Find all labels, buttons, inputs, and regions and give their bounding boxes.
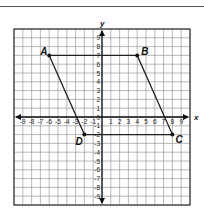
y-tick-label: 9 [96, 34, 100, 41]
x-tick-label: 9 [179, 118, 183, 125]
vertex-d-dot [82, 133, 86, 137]
x-axis-label: x [193, 113, 199, 122]
x-axis-arrow-right-icon [183, 114, 189, 120]
x-tick-label: 1 [109, 118, 113, 125]
y-tick-label: 4 [96, 78, 100, 85]
x-tick-label: 8 [171, 118, 175, 125]
vertex-d-label: D [75, 136, 82, 147]
x-tick-label: -9 [20, 118, 26, 125]
x-tick-label: 3 [127, 118, 131, 125]
x-tick-label: -8 [29, 118, 35, 125]
vertex-a-dot [47, 53, 51, 57]
vertex-c-dot [170, 133, 174, 137]
vertex-a-label: A [39, 46, 47, 57]
y-tick-label: -8 [94, 184, 100, 191]
x-tick-label: -6 [46, 118, 52, 125]
y-tick-label: 5 [96, 70, 100, 77]
y-tick-label: -3 [94, 140, 100, 147]
y-axis-label: y [99, 19, 105, 28]
x-tick-label: -5 [55, 118, 61, 125]
vertex-b-label: B [141, 46, 148, 57]
x-tick-label: 2 [118, 118, 122, 125]
x-tick-label: 4 [135, 118, 139, 125]
y-tick-label: -4 [94, 149, 100, 156]
vertex-points: ABCD [39, 46, 183, 146]
y-tick-label: 3 [96, 87, 100, 94]
y-tick-label: -5 [94, 158, 100, 165]
y-tick-label: 8 [96, 43, 100, 50]
y-tick-label: 2 [96, 96, 100, 103]
y-tick-label: -6 [94, 166, 100, 173]
y-tick-label: -7 [94, 175, 100, 182]
y-tick-label: 1 [96, 105, 100, 112]
y-tick-label: 6 [96, 61, 100, 68]
coordinate-plane: xy -9-8-7-6-5-4-3-2-11234567899876543210… [0, 0, 204, 222]
vertex-c-label: C [175, 134, 183, 145]
y-tick-label: -9 [94, 193, 100, 200]
y-tick-label: -1 [94, 122, 100, 129]
x-tick-label: -2 [82, 118, 88, 125]
x-tick-label: -7 [38, 118, 44, 125]
origin-label: 0 [96, 114, 100, 121]
x-tick-label: -4 [64, 118, 70, 125]
x-tick-label: 6 [153, 118, 157, 125]
x-tick-label: 5 [144, 118, 148, 125]
vertex-b-dot [135, 53, 139, 57]
